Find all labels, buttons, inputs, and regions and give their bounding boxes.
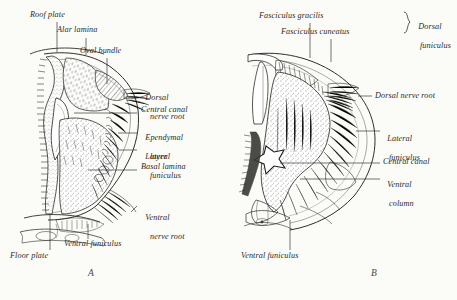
label-ventral-funiculus-b: Ventral funiculus [241,251,298,260]
label-ventral-column: Ventral column [383,171,414,218]
label-line-1: Dorsal [418,22,441,31]
label-line-2: nerve root [141,232,185,241]
label-central-canal-b: Central canal [383,157,430,166]
label-dorsal-funiculus: Dorsal funiculus [414,13,451,60]
label-floor-plate: Floor plate [10,251,48,260]
panel-b-drawing [239,53,375,230]
label-ventral-funiculus: Ventral funiculus [64,239,121,248]
label-oval-bundle: Oval bundle [80,46,121,55]
panel-a-drawing [20,48,150,246]
label-alar-lamina: Alar lamina [57,25,97,34]
panel-letter-b: B [371,268,377,278]
label-line-1: Dorsal [145,93,168,102]
label-line-2: funiculus [414,41,451,50]
label-line-1: Ventral [387,180,411,189]
label-fasciculus-gracilis: Fasciculus gracilis [259,11,323,20]
label-line-1: Ependymal [145,133,183,142]
label-roof-plate: Roof plate [30,10,65,19]
label-line-1: Lateral [387,134,412,143]
panel-letter-a: A [88,268,94,278]
label-line-1: Lateral [145,152,170,161]
label-line-1: Ventral [145,213,169,222]
label-basal-lamina: Basal lamina [141,162,186,171]
label-line-2: column [383,199,414,208]
label-ventral-nerve-root: Ventral nerve root [141,204,185,251]
label-central-canal: Central canal [141,105,188,114]
label-dorsal-nerve-root-b: Dorsal nerve root [375,91,435,100]
label-fasciculus-cuneatus: Fasciculus cuneatus [281,27,350,36]
label-line-2: funiculus [141,171,181,180]
dorsal-funiculus-bracket [404,12,410,33]
